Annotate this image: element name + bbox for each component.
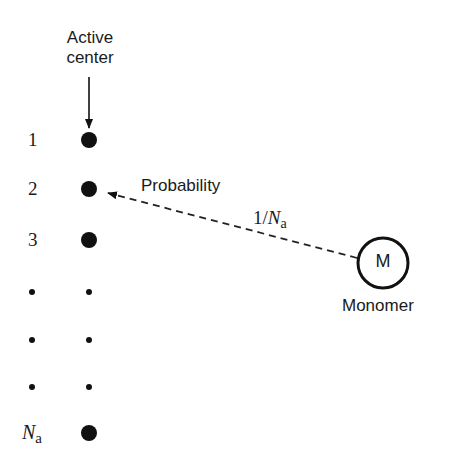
label-ellipsis-dot	[29, 384, 35, 390]
row-label-na: Na	[22, 421, 42, 444]
active-center-dot-2	[81, 181, 97, 197]
probability-value: 1/Na	[253, 207, 287, 229]
probability-N: N	[268, 207, 281, 228]
active-center-dot-na	[81, 425, 97, 441]
diagram-canvas: Active center 1 2 3 Na Probability 1/Na …	[0, 0, 458, 467]
probability-prefix: 1/	[253, 207, 268, 228]
ellipsis-dot	[86, 337, 92, 343]
na-subscript: a	[35, 430, 42, 446]
probability-arrow	[108, 193, 357, 258]
ellipsis-dot	[86, 384, 92, 390]
active-center-label-line1: Active	[60, 28, 120, 48]
diagram-graphics	[0, 0, 458, 467]
probability-label: Probability	[141, 176, 220, 196]
active-center-dot-1	[81, 132, 97, 148]
label-ellipsis-dot	[29, 337, 35, 343]
row-label-2: 2	[28, 178, 38, 200]
row-label-1: 1	[28, 129, 38, 151]
active-center-dot-3	[81, 232, 97, 248]
monomer-label: Monomer	[342, 296, 414, 316]
row-label-3: 3	[28, 229, 38, 251]
active-center-label-line2: center	[60, 48, 120, 68]
ellipsis-dot	[86, 289, 92, 295]
probability-subscript: a	[280, 216, 286, 231]
active-center-label: Active center	[60, 28, 120, 68]
monomer-symbol: M	[358, 251, 408, 272]
label-ellipsis-dot	[29, 289, 35, 295]
na-N: N	[22, 421, 35, 443]
